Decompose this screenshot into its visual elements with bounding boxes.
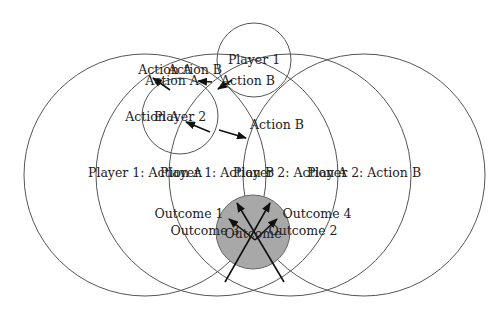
label-outcome-1: Outcome 1 (154, 206, 223, 221)
arrow-p2-action-b-icon (219, 130, 246, 138)
label-action-a-top-2: Action A (144, 73, 200, 88)
label-action-b-p1: Action B (220, 73, 275, 88)
arrow-action-a-2-icon (198, 81, 212, 82)
label-p2-action-b: Player 2: Action B (307, 165, 421, 180)
label-action-a-p2: Action A (124, 109, 180, 124)
label-outcome-4: Outcome 4 (282, 206, 351, 221)
label-player-1: Player 1 (228, 52, 280, 67)
label-action-b-p2: Action B (249, 117, 304, 132)
player-circles (142, 23, 291, 154)
game-outcome-diagram: Outcome Player 1: Action APlayer 1: Acti… (0, 0, 504, 315)
label-outcome-2: Outcome 2 (268, 223, 337, 238)
label-outcome-3: Outcome 3 (170, 223, 239, 238)
